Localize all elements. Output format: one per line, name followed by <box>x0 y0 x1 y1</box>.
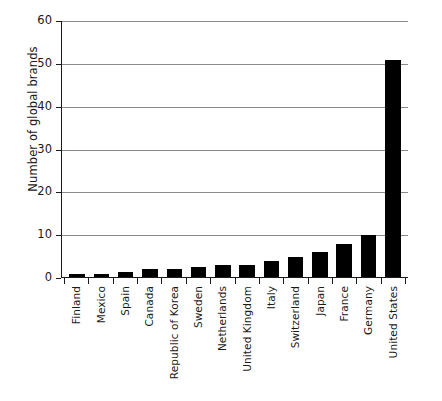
x-label-cell: Canada <box>137 286 161 398</box>
x-axis-tick-label: Canada <box>143 286 155 327</box>
x-axis-tick <box>332 278 333 284</box>
bar-cell <box>89 21 113 278</box>
y-axis-tick-label: 10 <box>22 227 52 241</box>
x-label-cell: United Kingdom <box>235 286 259 398</box>
x-axis-tick <box>356 278 357 284</box>
x-axis-tick-label: France <box>338 286 350 322</box>
bar-cell <box>211 21 235 278</box>
x-label-cell: Germany <box>356 286 380 398</box>
x-axis-tick-label: United Kingdom <box>241 286 253 372</box>
x-axis-tick <box>381 278 382 284</box>
x-axis-tick-label: Japan <box>314 286 326 316</box>
x-label-cell: France <box>332 286 356 398</box>
x-label-cell: Spain <box>113 286 137 398</box>
x-axis-tick-label: Sweden <box>192 286 204 328</box>
x-axis-tick-label: Mexico <box>95 286 107 323</box>
bar-cell <box>138 21 162 278</box>
x-axis-tick <box>210 278 211 284</box>
bar-cell <box>65 21 89 278</box>
y-axis-title: Number of global brands <box>26 4 40 234</box>
x-label-cell: Mexico <box>88 286 112 398</box>
x-axis-tick <box>405 278 406 284</box>
bar <box>288 257 304 278</box>
bar-cell <box>332 21 356 278</box>
x-axis-tick-label: Italy <box>265 286 277 309</box>
x-label-cell: Sweden <box>186 286 210 398</box>
x-label-cell: Netherlands <box>210 286 234 398</box>
x-axis-tick <box>88 278 89 284</box>
bar <box>264 261 280 278</box>
y-axis-tick-label: 0 <box>22 270 52 284</box>
x-axis-tick-labels: FinlandMexicoSpainCanadaRepublic of Kore… <box>61 286 408 398</box>
x-axis-tick-label: Switzerland <box>289 286 301 348</box>
bar-cell <box>381 21 405 278</box>
x-axis-tick <box>161 278 162 284</box>
bar-series <box>62 21 408 278</box>
bar <box>385 60 401 278</box>
x-axis-tick-label: Spain <box>119 286 131 316</box>
y-axis-tick-label: 30 <box>22 142 52 156</box>
x-axis-tick <box>64 278 65 284</box>
y-axis-tick-label: 60 <box>22 13 52 27</box>
x-axis-tick-label: United States <box>387 286 399 358</box>
bar <box>312 252 328 278</box>
plot-area <box>61 21 408 278</box>
bar-chart: Number of global brands 0102030405060 Fi… <box>0 0 442 401</box>
bar <box>361 235 377 278</box>
x-label-cell: United States <box>381 286 405 398</box>
x-label-cell: Republic of Korea <box>161 286 185 398</box>
y-axis-tick-label: 20 <box>22 184 52 198</box>
bar-cell <box>186 21 210 278</box>
x-label-cell: Italy <box>259 286 283 398</box>
x-label-cell: Finland <box>64 286 88 398</box>
x-axis-tick <box>308 278 309 284</box>
x-axis-tick-label: Netherlands <box>216 286 228 351</box>
bar-cell <box>162 21 186 278</box>
x-axis-tick <box>186 278 187 284</box>
x-axis-tick <box>259 278 260 284</box>
x-label-cell: Switzerland <box>283 286 307 398</box>
bar-cell <box>114 21 138 278</box>
x-axis-tick <box>235 278 236 284</box>
x-axis-tick-label: Germany <box>362 286 374 335</box>
bar-cell <box>235 21 259 278</box>
x-label-cell: Japan <box>308 286 332 398</box>
x-axis-tick <box>113 278 114 284</box>
x-axis-ticks <box>61 278 408 284</box>
bar <box>336 244 352 278</box>
bar-cell <box>308 21 332 278</box>
y-axis-tick-label: 40 <box>22 99 52 113</box>
x-axis-tick-label: Finland <box>70 286 82 324</box>
bar-cell <box>259 21 283 278</box>
y-axis-tick-label: 50 <box>22 56 52 70</box>
bar-cell <box>284 21 308 278</box>
x-axis-tick-label: Republic of Korea <box>168 286 180 379</box>
bar-cell <box>356 21 380 278</box>
x-axis-tick <box>283 278 284 284</box>
x-axis-tick <box>137 278 138 284</box>
